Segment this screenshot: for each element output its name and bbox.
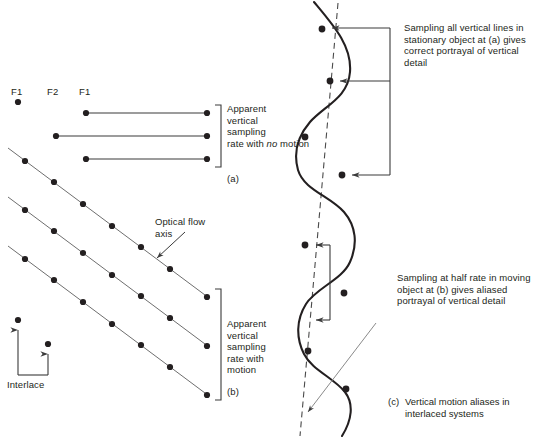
- panel-a-bracket-label-head: Apparent vertical sampling rate with: [227, 103, 267, 149]
- figure-caption-text: Vertical motion aliases in interlaced sy…: [405, 396, 544, 419]
- field-label-f2: F2: [47, 86, 58, 98]
- panel-b-group: [8, 148, 221, 400]
- caption-leader: [308, 323, 376, 412]
- annotation-half-rate-sampling: Sampling at half rate in moving object a…: [397, 272, 543, 307]
- vertical-detail-waveform: [296, 2, 355, 436]
- field-label-f1-second: F1: [79, 86, 90, 98]
- figure-caption: (c) Vertical motion aliases in interlace…: [388, 396, 544, 419]
- panel-a-bracket-label: Apparent vertical sampling rate with no …: [227, 103, 309, 149]
- annotation-stationary-sampling: Sampling all vertical lines in stationar…: [404, 22, 544, 68]
- panel-b-bracket: [215, 289, 221, 400]
- horizontal-sample-line: [83, 110, 210, 116]
- optical-flow-axis-label: Optical flow axis: [155, 216, 205, 239]
- panel-a-group: [15, 99, 221, 167]
- panel-a-tag: (a): [227, 173, 239, 185]
- interlace-bracket: [15, 317, 51, 375]
- figure-root: F1 F2 F1 Apparent vertical sampling rate…: [0, 0, 544, 441]
- sample-dot: [15, 99, 21, 105]
- panel-a-bracket-label-emphasis: no: [267, 138, 278, 149]
- interlace-label: Interlace: [7, 379, 44, 391]
- callout-bottom: [316, 245, 330, 320]
- figure-caption-tag: (c): [388, 396, 399, 408]
- field-label-f1-first: F1: [11, 86, 22, 98]
- panel-a-bracket-label-tail: motion: [277, 138, 309, 149]
- horizontal-sample-line: [83, 156, 210, 162]
- panel-a-bracket: [215, 105, 221, 167]
- panel-c-group: [296, 2, 390, 436]
- horizontal-sample-line: [53, 133, 210, 139]
- callout-top: [332, 28, 390, 175]
- panel-b-tag: (b): [227, 386, 239, 398]
- panel-b-bracket-label: Apparent vertical sampling rate with mot…: [227, 318, 266, 376]
